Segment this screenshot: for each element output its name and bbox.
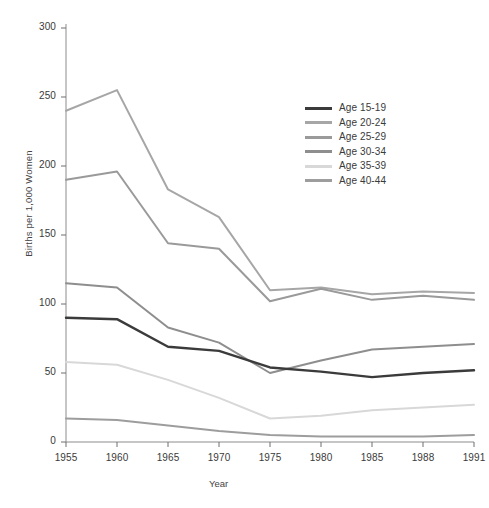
x-tick-label: 1970 bbox=[199, 452, 239, 463]
legend-item[interactable]: Age 20-24 bbox=[305, 116, 386, 131]
series-line-age-25-29 bbox=[66, 172, 474, 302]
y-tick-label: 50 bbox=[22, 366, 56, 377]
x-tick-label: 1955 bbox=[46, 452, 86, 463]
y-tick-label: 0 bbox=[22, 435, 56, 446]
legend-item[interactable]: Age 15-19 bbox=[305, 101, 386, 116]
legend-item[interactable]: Age 35-39 bbox=[305, 159, 386, 174]
x-tick-label: 1960 bbox=[97, 452, 137, 463]
legend-label: Age 30-34 bbox=[339, 147, 386, 157]
legend-swatch-icon bbox=[305, 121, 332, 124]
legend-label: Age 25-29 bbox=[339, 132, 386, 142]
legend-swatch-icon bbox=[305, 107, 332, 110]
x-tick-label: 1988 bbox=[403, 452, 443, 463]
birth-rate-line-chart: Births per 1,000 Women Year 050100150200… bbox=[0, 0, 489, 508]
x-tick-label: 1975 bbox=[250, 452, 290, 463]
chart-legend: Age 15-19Age 20-24Age 25-29Age 30-34Age … bbox=[305, 101, 386, 188]
series-line-age-35-39 bbox=[66, 362, 474, 419]
legend-swatch-icon bbox=[305, 136, 332, 139]
axis-spine bbox=[66, 24, 474, 442]
series-line-age-20-24 bbox=[66, 90, 474, 294]
x-tick-label: 1991 bbox=[454, 452, 489, 463]
legend-label: Age 35-39 bbox=[339, 161, 386, 171]
legend-swatch-icon bbox=[305, 150, 332, 153]
x-tick-label: 1980 bbox=[301, 452, 341, 463]
legend-label: Age 40-44 bbox=[339, 176, 386, 186]
legend-item[interactable]: Age 25-29 bbox=[305, 130, 386, 145]
series-line-age-40-44 bbox=[66, 419, 474, 437]
y-tick-label: 300 bbox=[22, 21, 56, 32]
x-tick-label: 1965 bbox=[148, 452, 188, 463]
x-tick-label: 1985 bbox=[352, 452, 392, 463]
legend-label: Age 20-24 bbox=[339, 118, 386, 128]
y-tick-label: 100 bbox=[22, 297, 56, 308]
y-tick-label: 250 bbox=[22, 90, 56, 101]
legend-item[interactable]: Age 30-34 bbox=[305, 145, 386, 160]
y-tick-label: 200 bbox=[22, 159, 56, 170]
legend-item[interactable]: Age 40-44 bbox=[305, 174, 386, 189]
legend-swatch-icon bbox=[305, 179, 332, 182]
y-tick-label: 150 bbox=[22, 228, 56, 239]
legend-label: Age 15-19 bbox=[339, 103, 386, 113]
plot-area bbox=[0, 0, 489, 508]
legend-swatch-icon bbox=[305, 165, 332, 168]
